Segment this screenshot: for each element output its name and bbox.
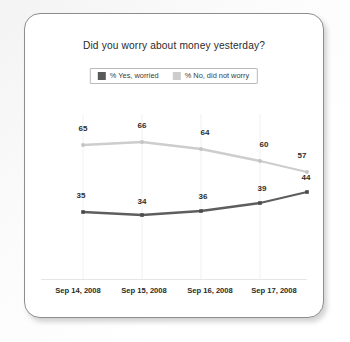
value-label-yes-4: 44 xyxy=(302,173,311,182)
value-label-no-0: 65 xyxy=(79,124,88,133)
value-label-yes-0: 35 xyxy=(77,191,86,200)
x-tick-label-0: Sep 14, 2008 xyxy=(55,286,101,295)
series-line-no xyxy=(83,142,307,172)
value-label-no-4: 57 xyxy=(298,151,307,160)
chart-screenshot: Did you worry about money yesterday? % Y… xyxy=(0,0,350,342)
value-label-no-3: 60 xyxy=(260,140,269,149)
x-tick-label-3: Sep 17, 2008 xyxy=(251,286,297,295)
value-label-yes-2: 36 xyxy=(199,192,208,201)
chart-plot-area xyxy=(25,14,324,318)
series-line-yes xyxy=(83,192,307,215)
x-tick-label-1: Sep 15, 2008 xyxy=(121,286,167,295)
value-label-yes-1: 34 xyxy=(138,197,147,206)
value-label-no-2: 64 xyxy=(201,128,210,137)
chart-card: Did you worry about money yesterday? % Y… xyxy=(24,13,324,318)
series-markers-no xyxy=(81,140,309,174)
value-label-yes-3: 39 xyxy=(258,184,267,193)
value-label-no-1: 66 xyxy=(138,121,147,130)
x-tick-label-2: Sep 16, 2008 xyxy=(187,286,233,295)
gridlines xyxy=(83,114,260,279)
